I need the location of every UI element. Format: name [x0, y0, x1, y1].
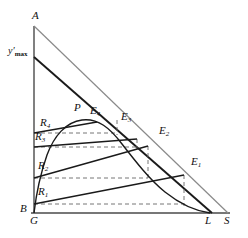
label-e4: E4 [90, 105, 100, 116]
label-e4-sub: 4 [97, 110, 101, 118]
label-e2-letter: E [159, 124, 166, 136]
label-r1: R1 [38, 186, 48, 197]
label-e3: E3 [121, 111, 131, 122]
label-r1-letter: R [38, 185, 45, 197]
label-e3-letter: E [121, 110, 128, 122]
label-r2-letter: R [38, 159, 45, 171]
label-ymax-sub: max [15, 50, 28, 58]
label-axis-end-s: S [224, 215, 230, 226]
label-e2-sub: 2 [166, 130, 170, 138]
tangent-line-ymax-l [34, 57, 212, 213]
figure-container: A y′max B G L S P R4 R3 R2 R1 E4 E3 E2 E… [0, 0, 248, 238]
label-r3-letter: R [35, 130, 42, 142]
label-e2: E2 [159, 125, 169, 136]
label-peak-p: P [74, 102, 81, 113]
label-origin-left-b: B [20, 203, 27, 214]
label-r4-letter: R [40, 116, 47, 128]
label-r1-sub: 1 [45, 191, 49, 199]
label-r2-sub: 2 [45, 165, 49, 173]
label-e4-letter: E [90, 104, 97, 116]
label-r3-sub: 3 [42, 136, 46, 144]
label-r2: R2 [38, 160, 48, 171]
label-e1-sub: 1 [198, 161, 202, 169]
label-e1-letter: E [191, 155, 198, 167]
chord-line-e2 [34, 146, 148, 178]
label-r4-sub: 4 [47, 122, 51, 130]
label-origin-g: G [30, 215, 38, 226]
label-curve-end-l: L [205, 215, 211, 226]
label-ymax: y′max [8, 46, 27, 56]
label-apex-a: A [32, 10, 39, 21]
label-e3-sub: 3 [128, 116, 132, 124]
label-e1: E1 [191, 156, 201, 167]
label-r4: R4 [40, 117, 50, 128]
label-r3: R3 [35, 131, 45, 142]
